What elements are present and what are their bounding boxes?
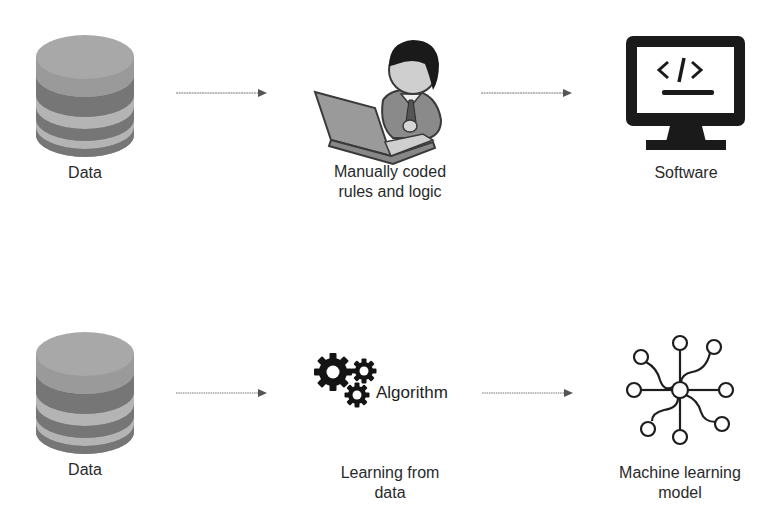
- label-line-2: model: [590, 483, 770, 503]
- node-label-manual-rules: Manually coded rules and logic: [290, 162, 490, 202]
- label-line-2: rules and logic: [290, 182, 490, 202]
- node-label-data: Data: [36, 460, 134, 480]
- arrow-icon: [176, 88, 268, 98]
- label-line-1: Machine learning: [590, 463, 770, 483]
- label-line-1: Manually coded: [290, 162, 490, 182]
- arrow-icon: [481, 88, 573, 98]
- label-line-2: data: [290, 483, 490, 503]
- label-line-1: Learning from: [290, 463, 490, 483]
- database-icon: [36, 332, 136, 456]
- node-label-learning: Learning from data: [290, 463, 490, 503]
- arrow-icon: [176, 388, 268, 398]
- algorithm-label: Algorithm: [376, 383, 448, 403]
- database-icon: [36, 35, 136, 159]
- computer-monitor-code-icon: [626, 36, 746, 152]
- gears-icon: [313, 352, 383, 412]
- node-label-ml-model: Machine learning model: [590, 463, 770, 503]
- node-label-data: Data: [36, 163, 134, 183]
- programmer-at-laptop-icon: [313, 30, 447, 154]
- neural-network-icon: [620, 330, 740, 450]
- node-label-software: Software: [626, 163, 746, 183]
- arrow-icon: [482, 388, 574, 398]
